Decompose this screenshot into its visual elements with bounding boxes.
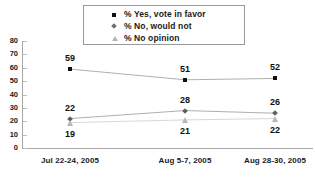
data-point-label: 22: [255, 125, 295, 135]
data-point-marker: [67, 120, 73, 126]
data-point-marker: [68, 67, 72, 71]
data-point-marker: [183, 78, 187, 82]
data-point-label: 28: [165, 95, 205, 105]
data-point-marker: [182, 117, 188, 123]
data-point-label: 52: [255, 62, 295, 72]
data-point-label: 26: [255, 97, 295, 107]
series-line: [70, 111, 275, 119]
data-point-label: 59: [50, 53, 90, 63]
data-point-label: 22: [50, 103, 90, 113]
data-point-label: 19: [50, 129, 90, 139]
data-point-marker: [272, 116, 278, 122]
series-line: [70, 119, 275, 123]
data-point-label: 51: [165, 64, 205, 74]
series-lines: [0, 0, 315, 177]
data-point-label: 21: [165, 126, 205, 136]
poll-line-chart: % Yes, vote in favor % No, would not % N…: [0, 0, 315, 177]
data-point-marker: [273, 76, 277, 80]
